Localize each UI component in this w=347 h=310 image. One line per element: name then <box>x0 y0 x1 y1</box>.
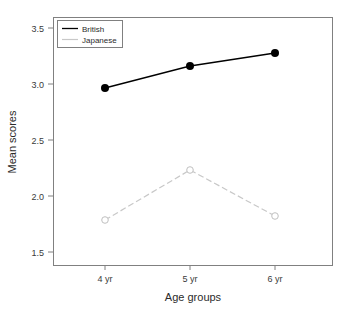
chart-page: 3.5 3.0 2.5 2.0 1.5 4 yr 5 yr 6 yr Age g… <box>0 0 347 310</box>
y-tick-label: 3.0 <box>31 80 44 90</box>
x-axis-title: Age groups <box>165 291 222 303</box>
british-point <box>186 62 194 70</box>
y-tick-label: 1.5 <box>31 248 44 258</box>
japanese-point <box>102 217 109 224</box>
line-chart: 3.5 3.0 2.5 2.0 1.5 4 yr 5 yr 6 yr Age g… <box>0 0 347 310</box>
british-point <box>101 84 109 92</box>
chart-legend: British Japanese <box>58 21 123 48</box>
japanese-point <box>187 167 194 174</box>
x-tick-label: 4 yr <box>97 274 112 284</box>
x-tick-label: 5 yr <box>182 274 197 284</box>
x-tick-label: 6 yr <box>267 274 282 284</box>
y-tick-label: 3.5 <box>31 24 44 34</box>
legend-label-japanese: Japanese <box>82 36 117 45</box>
british-point <box>271 49 279 57</box>
japanese-point <box>272 213 279 220</box>
y-tick-label: 2.5 <box>31 136 44 146</box>
legend-label-british: British <box>82 25 104 34</box>
y-tick-label: 2.0 <box>31 192 44 202</box>
chart-background <box>0 0 347 310</box>
y-axis-title: Mean scores <box>6 110 18 173</box>
